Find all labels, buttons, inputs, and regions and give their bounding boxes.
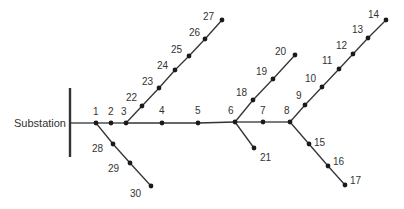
- line-segment-18-19: [253, 79, 273, 100]
- line-segment-13-14: [368, 20, 386, 38]
- node-label-10: 10: [305, 73, 317, 84]
- node-2: [109, 121, 114, 126]
- node-30: [149, 184, 154, 189]
- node-label-9: 9: [296, 90, 302, 101]
- node-24: [173, 68, 178, 73]
- node-label-14: 14: [368, 9, 380, 20]
- node-label-18: 18: [236, 87, 248, 98]
- node-11: [337, 67, 342, 72]
- node-label-23: 23: [142, 76, 154, 87]
- node-13: [366, 36, 371, 41]
- node-26: [203, 37, 208, 42]
- node-15: [307, 142, 312, 147]
- line-segment-1-28: [96, 123, 113, 144]
- node-7: [261, 120, 266, 125]
- node-label-5: 5: [195, 105, 201, 116]
- line-segment-8-9: [290, 105, 305, 122]
- node-label-26: 26: [189, 27, 201, 38]
- line-segment-11-12: [339, 54, 353, 69]
- line-segment-3-22: [126, 106, 142, 123]
- node-4: [160, 121, 165, 126]
- node-25: [187, 54, 192, 59]
- node-18: [251, 98, 256, 103]
- line-segment-29-30: [130, 163, 151, 186]
- node-label-25: 25: [171, 44, 183, 55]
- line-segment-10-11: [322, 69, 339, 87]
- node-16: [326, 164, 331, 169]
- line-segment-6-18: [235, 100, 253, 122]
- line-segment-26-27: [205, 20, 222, 39]
- node-label-6: 6: [228, 105, 234, 116]
- node-5: [196, 121, 201, 126]
- node-10: [320, 85, 325, 90]
- line-segment-24-25: [175, 56, 189, 70]
- node-12: [351, 52, 356, 57]
- node-label-1: 1: [93, 106, 99, 117]
- node-label-2: 2: [108, 106, 114, 117]
- line-segment-23-24: [159, 70, 175, 88]
- node-label-3: 3: [121, 106, 127, 117]
- node-label-15: 15: [314, 137, 326, 148]
- node-19: [271, 77, 276, 82]
- substation-label: Substation: [14, 117, 66, 129]
- node-label-11: 11: [322, 55, 333, 66]
- node-3: [124, 121, 129, 126]
- node-label-29: 29: [108, 163, 120, 174]
- node-label-28: 28: [92, 143, 104, 154]
- node-21: [252, 146, 257, 151]
- node-label-24: 24: [157, 60, 169, 71]
- node-17: [343, 183, 348, 188]
- node-28: [111, 142, 116, 147]
- node-labels: 1234567891011121314151617181920212223242…: [92, 9, 380, 199]
- line-segment-9-10: [305, 87, 322, 105]
- line-segment-16-17: [328, 166, 345, 185]
- node-label-17: 17: [350, 175, 362, 186]
- line-segment-12-13: [353, 38, 368, 54]
- node-label-13: 13: [352, 24, 364, 35]
- node-23: [157, 86, 162, 91]
- node-29: [128, 161, 133, 166]
- node-6: [233, 120, 238, 125]
- node-label-30: 30: [130, 188, 142, 199]
- node-27: [220, 18, 225, 23]
- line-segment-19-20: [273, 55, 295, 79]
- node-label-27: 27: [203, 11, 215, 22]
- line-segment-6-21: [235, 122, 254, 148]
- line-segment-5-6: [198, 122, 235, 123]
- node-label-19: 19: [256, 66, 268, 77]
- line-segment-8-15: [290, 122, 309, 144]
- line-segment-28-29: [113, 144, 130, 163]
- node-label-20: 20: [275, 46, 287, 57]
- line-segment-25-26: [189, 39, 205, 56]
- node-label-4: 4: [159, 105, 165, 116]
- node-label-21: 21: [260, 152, 272, 163]
- node-14: [384, 18, 389, 23]
- line-segment-22-23: [142, 88, 159, 106]
- node-label-8: 8: [284, 105, 290, 116]
- node-label-16: 16: [333, 156, 345, 167]
- node-label-12: 12: [336, 40, 348, 51]
- feeder-diagram: Substation 12345678910111213141516171819…: [0, 0, 404, 209]
- node-label-7: 7: [260, 105, 266, 116]
- node-8: [288, 120, 293, 125]
- node-label-22: 22: [126, 92, 138, 103]
- node-20: [293, 53, 298, 58]
- node-1: [94, 121, 99, 126]
- node-9: [303, 103, 308, 108]
- node-22: [140, 104, 145, 109]
